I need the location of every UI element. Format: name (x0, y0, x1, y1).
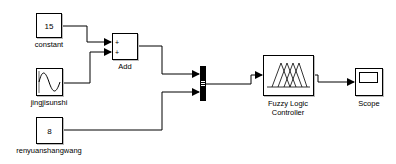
sine-wave-block[interactable] (36, 68, 63, 96)
membership-functions-icon (264, 56, 313, 95)
add-block[interactable]: + + (112, 33, 138, 60)
line-add-to-mux[interactable] (138, 46, 199, 74)
sine-wave-label: jingjisunshi (31, 98, 68, 107)
sine-wave-icon (37, 69, 62, 95)
renyuanshangwang-value: 8 (37, 126, 62, 135)
scope-screen-icon (359, 72, 378, 83)
fuzzy-logic-controller-block[interactable] (263, 55, 314, 96)
mux-indicator (201, 81, 205, 86)
fuzzy-label-line1: Fuzzy Logic (268, 99, 308, 108)
scope-block[interactable] (355, 68, 383, 96)
line-sine-to-add[interactable] (63, 52, 111, 83)
add-sign-2: + (115, 49, 119, 56)
line-mux-to-fuzzy[interactable] (206, 75, 262, 84)
renyuanshangwang-label: renyuanshangwang (16, 146, 81, 155)
renyuanshangwang-block[interactable]: 8 (36, 117, 63, 144)
constant-label: constant (35, 40, 63, 49)
constant-value: 15 (37, 21, 61, 30)
line-const8-to-mux[interactable] (63, 92, 199, 130)
line-fuzzy-to-scope[interactable] (314, 75, 354, 82)
scope-label: Scope (358, 99, 379, 108)
constant-block[interactable]: 15 (36, 13, 62, 38)
add-sign-1: + (115, 39, 119, 46)
line-constant-to-add[interactable] (62, 26, 111, 42)
add-label: Add (118, 62, 131, 71)
fuzzy-label-line2: Controller (272, 108, 305, 117)
mux-block[interactable] (200, 66, 206, 101)
